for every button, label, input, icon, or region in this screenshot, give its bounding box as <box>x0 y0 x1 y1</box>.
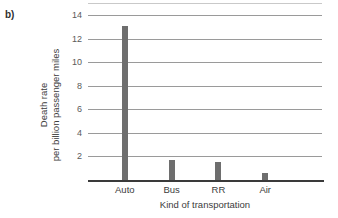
y-axis-tick-label: 8 <box>77 81 82 91</box>
x-axis-tick-label: Auto <box>115 184 135 195</box>
y-axis-tick-label: 12 <box>72 34 82 44</box>
y-axis-tick-label: 2 <box>77 151 82 161</box>
y-axis-tick-label: 4 <box>77 128 82 138</box>
gridline <box>88 15 322 16</box>
x-axis-line <box>88 180 324 182</box>
x-axis-tick-label: Bus <box>163 184 179 195</box>
y-axis-tick-label: 6 <box>77 104 82 114</box>
y-axis-tick-label: 10 <box>72 57 82 67</box>
bar <box>215 162 221 180</box>
bar <box>169 160 175 180</box>
y-axis-tick-label: 14 <box>72 10 82 20</box>
y-axis-title-line-1: Death rate <box>38 22 50 188</box>
x-axis-tick-label: Air <box>259 184 271 195</box>
x-axis-title: Kind of transportation <box>88 199 322 210</box>
bar <box>262 173 268 180</box>
plot-area <box>88 15 322 180</box>
y-axis-tick-labels: 1412108642 <box>58 15 82 180</box>
x-axis-tick-label: RR <box>212 184 226 195</box>
bar <box>122 26 128 180</box>
bar-chart: Death rate per billion passenger miles 1… <box>0 0 338 218</box>
